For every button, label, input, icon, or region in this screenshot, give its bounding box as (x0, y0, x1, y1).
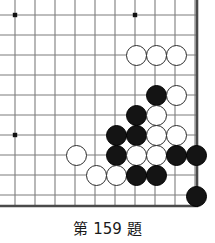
white-stone[interactable] (166, 45, 187, 66)
white-stone[interactable] (146, 125, 167, 146)
star-point (13, 13, 17, 17)
white-stone[interactable] (146, 105, 167, 126)
star-point (133, 13, 137, 17)
star-point (13, 133, 17, 137)
caption-text: 第 159 題 (73, 217, 141, 238)
black-stone[interactable] (186, 145, 207, 166)
white-stone[interactable] (146, 45, 167, 66)
white-stone[interactable] (126, 45, 147, 66)
black-stone[interactable] (126, 165, 147, 186)
black-stone[interactable] (146, 165, 167, 186)
white-stone[interactable] (66, 145, 87, 166)
white-stone[interactable] (166, 125, 187, 146)
figure-caption: 第 159 題 (0, 212, 215, 243)
white-stone[interactable] (166, 85, 187, 106)
black-stone[interactable] (186, 186, 207, 207)
black-stone[interactable] (106, 125, 127, 146)
white-stone[interactable] (86, 165, 107, 186)
white-stone[interactable] (106, 165, 127, 186)
go-problem-figure: 第 159 題 (0, 0, 215, 243)
black-stone[interactable] (126, 105, 147, 126)
white-stone[interactable] (146, 145, 167, 166)
black-stone[interactable] (106, 145, 127, 166)
go-board[interactable] (0, 0, 215, 212)
white-stone[interactable] (126, 145, 147, 166)
black-stone[interactable] (146, 85, 167, 106)
black-stone[interactable] (126, 125, 147, 146)
black-stone[interactable] (166, 145, 187, 166)
